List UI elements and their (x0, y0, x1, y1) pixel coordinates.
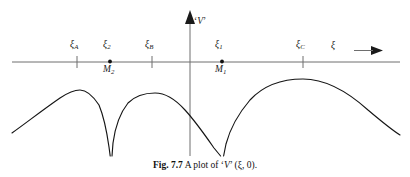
caption-text: A plot of (185, 160, 221, 170)
caption-number: Fig. 7.7 (153, 160, 183, 170)
y-axis-label: ‘V’ (194, 17, 206, 27)
marker-dot-M2 (108, 60, 112, 64)
zero-label-xi-2: ξ2 (103, 40, 110, 50)
tick-label-xi-B: ξB (145, 40, 153, 50)
figure-container: ξA ξB ξC ξ2 ξ1 M2 M1 ξ ‘V’ Fig. 7.7 A pl… (0, 0, 410, 177)
marker-label-M1: M1 (215, 65, 226, 75)
marker-label-M2: M2 (103, 65, 114, 75)
caption-args: (ξ, 0). (232, 160, 257, 170)
marker-sub-2: 2 (111, 68, 114, 75)
tick-label-xi-C: ξC (296, 40, 305, 50)
tick-sub-C: C (300, 43, 305, 50)
zero-sub-1: 1 (219, 43, 222, 50)
tick-label-xi-A: ξA (70, 40, 78, 50)
marker-sub-1: 1 (223, 68, 226, 75)
zero-sub-2: 2 (107, 43, 110, 50)
curve-branch-middle (112, 93, 221, 156)
curve-branch-right (224, 79, 400, 156)
figure-caption: Fig. 7.7 A plot of ‘V’ (ξ, 0). (0, 160, 410, 170)
tick-sub-A: A (74, 43, 78, 50)
zero-label-xi-1: ξ1 (215, 40, 222, 50)
curve-branch-left (12, 90, 110, 156)
marker-dot-M1 (220, 60, 224, 64)
tick-sub-B: B (149, 43, 153, 50)
plot-canvas (0, 0, 410, 177)
x-axis-label: ξ (331, 41, 335, 51)
